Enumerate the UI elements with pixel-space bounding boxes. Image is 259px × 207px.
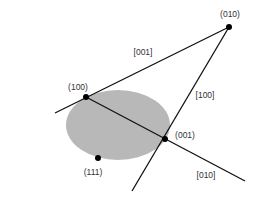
label-line-001: [001] (134, 47, 153, 57)
label-point-100: (100) (68, 82, 88, 92)
label-point-010: (010) (220, 9, 240, 19)
point-001 (162, 136, 168, 142)
label-line-100: [100] (196, 90, 215, 100)
label-line-010: [010] (197, 170, 216, 180)
crystal-orientation-diagram: (010) (100) (001) (111) [001] [100] [010… (0, 0, 259, 207)
point-111 (95, 155, 101, 161)
point-010 (226, 24, 232, 30)
label-point-001: (001) (175, 130, 195, 140)
label-point-111: (111) (84, 167, 103, 177)
point-100 (83, 94, 89, 100)
